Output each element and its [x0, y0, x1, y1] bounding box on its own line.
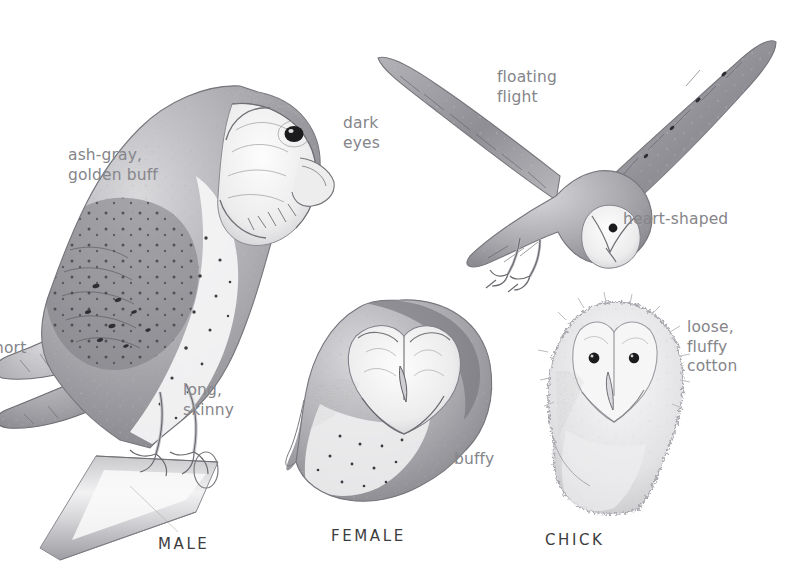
flying-owl-eye	[609, 224, 618, 233]
male-eye	[285, 126, 304, 142]
figure-male-owl	[0, 80, 340, 560]
caption-chick: CHICK	[545, 531, 605, 549]
caption-male: MALE	[158, 535, 209, 553]
figure-chick	[538, 292, 696, 522]
label-buffy: buffy	[454, 450, 494, 470]
male-facial-disc	[218, 90, 335, 246]
chick-left-eye	[589, 353, 600, 364]
label-loose-fluffy-cotton: loose, fluffy cotton	[687, 318, 737, 377]
label-short: hort	[0, 339, 26, 359]
label-ash-gray-golden-buff: ash-gray, golden buff	[68, 146, 158, 185]
label-long-skinny: long, skinny	[183, 381, 234, 420]
caption-female: FEMALE	[331, 527, 406, 545]
figure-flying-owl	[370, 30, 800, 292]
label-heart-shaped: heart-shaped	[623, 210, 728, 230]
label-floating-flight: floating flight	[497, 68, 557, 107]
illustration-plate: ash-gray, golden buff dark eyes floating…	[0, 0, 801, 586]
chick-right-eye	[629, 353, 639, 363]
owl-illustration-artwork	[0, 0, 801, 586]
figure-female-head	[280, 290, 510, 515]
label-dark-eyes: dark eyes	[343, 114, 380, 153]
